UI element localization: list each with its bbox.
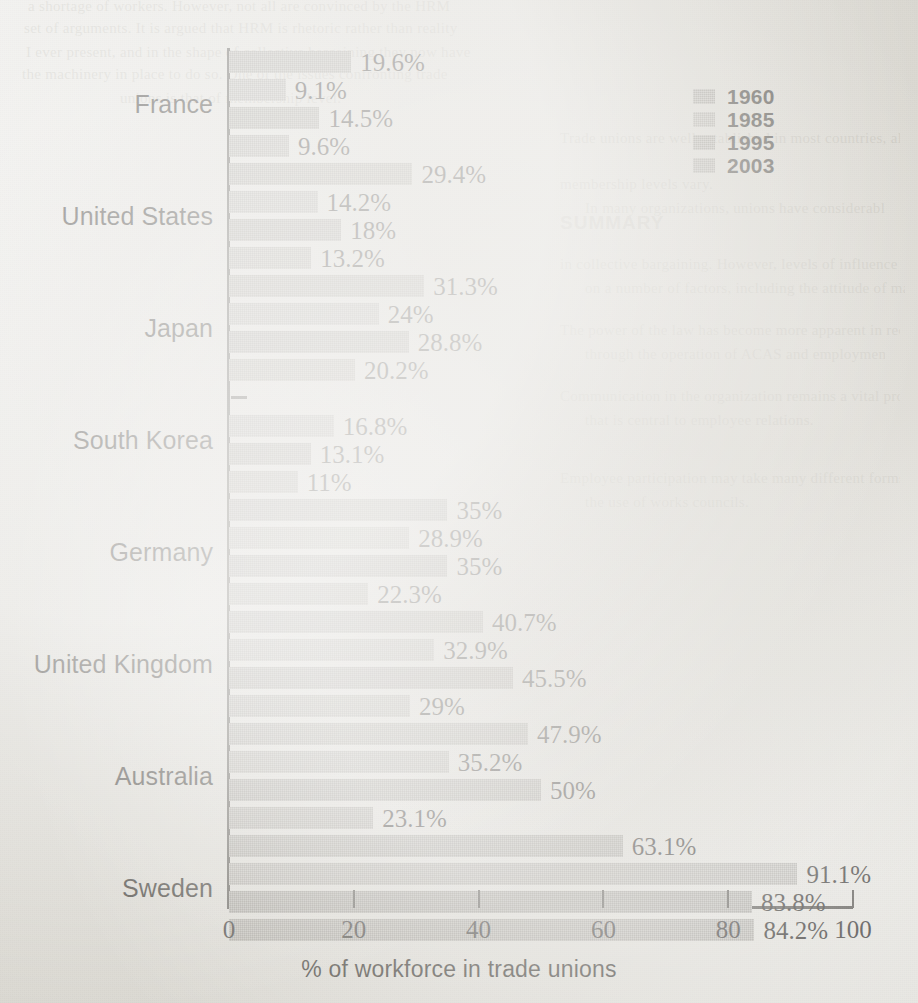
bar — [229, 555, 447, 577]
bar-value-label: 22.3% — [377, 581, 442, 609]
legend-label-1995: 1995 — [727, 131, 775, 155]
category-label-japan: Japan — [0, 314, 213, 343]
bar-missing-stub — [231, 396, 247, 399]
bar — [229, 527, 409, 549]
category-label-germany: Germany — [0, 538, 213, 567]
bar — [229, 331, 409, 353]
legend-item-1985: 1985 — [693, 109, 775, 130]
bar — [229, 471, 298, 493]
bar — [229, 863, 797, 885]
bar-value-label: 11% — [307, 469, 352, 497]
bar — [229, 303, 379, 325]
bar-value-label: 14.5% — [328, 105, 393, 133]
bar-value-label: 28.9% — [418, 525, 483, 553]
x-axis-tick-label: 20 — [341, 916, 366, 944]
bar — [229, 275, 424, 297]
x-axis-tick-label: 60 — [591, 916, 616, 944]
bar — [229, 191, 318, 213]
bar — [229, 751, 449, 773]
x-axis-title: % of workforce in trade unions — [0, 956, 918, 983]
bar-value-label: 20.2% — [364, 357, 429, 385]
category-label-france: France — [0, 90, 213, 119]
bar — [229, 359, 355, 381]
category-label-australia: Australia — [0, 762, 213, 791]
bar — [229, 219, 341, 241]
bar-value-label: 29.4% — [421, 161, 486, 189]
category-label-sweden: Sweden — [0, 874, 213, 903]
bar-value-label: 19.6% — [360, 49, 425, 77]
x-axis-tick-label: 0 — [223, 916, 236, 944]
bar — [229, 835, 623, 857]
legend-item-2003: 2003 — [693, 155, 775, 176]
bar-value-label: 28.8% — [418, 329, 483, 357]
x-axis-tick-label: 80 — [716, 916, 741, 944]
bar-value-label: 83.8% — [761, 889, 826, 917]
bar-value-label: 9.1% — [295, 77, 347, 105]
bar-value-label: 32.9% — [443, 637, 508, 665]
bar — [229, 807, 373, 829]
bar-value-label: 31.3% — [433, 273, 498, 301]
bar-value-label: 13.2% — [320, 245, 385, 273]
x-axis-tick — [353, 890, 355, 908]
bar-value-label: 45.5% — [522, 665, 587, 693]
bar — [229, 667, 513, 689]
legend-label-1985: 1985 — [727, 108, 775, 132]
bar — [229, 499, 447, 521]
bar — [229, 611, 483, 633]
bar — [229, 135, 289, 157]
bar — [229, 443, 311, 465]
x-axis-tick-label: 40 — [466, 916, 491, 944]
category-label-south-korea: South Korea — [0, 426, 213, 455]
bar — [229, 695, 410, 717]
bar — [229, 415, 334, 437]
legend-swatch-1985 — [693, 112, 715, 127]
legend-item-1960: 1960 — [693, 86, 775, 107]
category-label-united-kingdom: United Kingdom — [0, 650, 213, 679]
bar — [229, 723, 528, 745]
bar-value-label: 40.7% — [492, 609, 557, 637]
bar — [229, 779, 541, 801]
bar — [229, 51, 351, 73]
bar — [229, 639, 434, 661]
bar-value-label: 24% — [388, 301, 434, 329]
bar — [229, 79, 286, 101]
category-label-united-states: United States — [0, 202, 213, 231]
bar-value-label: 50% — [550, 777, 596, 805]
x-axis-tick-label: 100 — [834, 916, 872, 944]
x-axis-tick — [478, 890, 480, 908]
legend-swatch-2003 — [693, 158, 715, 173]
bar-value-label: 9.6% — [298, 133, 350, 161]
bar — [229, 919, 754, 941]
legend-swatch-1995 — [693, 135, 715, 150]
legend-item-1995: 1995 — [693, 132, 775, 153]
x-axis-tick — [602, 890, 604, 908]
bar-value-label: 47.9% — [537, 721, 602, 749]
bar — [229, 247, 311, 269]
bar-value-label: 14.2% — [327, 189, 392, 217]
chart-legend: 1960198519952003 — [693, 86, 775, 178]
bar-value-label: 35% — [456, 553, 502, 581]
bar-value-label: 35.2% — [458, 749, 523, 777]
x-axis-tick — [852, 890, 854, 908]
legend-label-1960: 1960 — [727, 85, 775, 109]
bar-value-label: 29% — [419, 693, 465, 721]
bar — [229, 163, 412, 185]
bar — [229, 107, 319, 129]
bar-value-label: 84.2% — [763, 917, 828, 945]
bar-value-label: 91.1% — [806, 861, 871, 889]
bar-value-label: 13.1% — [320, 441, 385, 469]
legend-label-2003: 2003 — [727, 154, 775, 178]
bar-value-label: 63.1% — [632, 833, 697, 861]
bar-value-label: 16.8% — [343, 413, 408, 441]
bar-value-label: 18% — [350, 217, 396, 245]
x-axis-tick — [727, 890, 729, 908]
bar — [229, 891, 752, 913]
legend-swatch-1960 — [693, 89, 715, 104]
bar — [229, 583, 368, 605]
grouped-bar-chart: 19.6%9.1%14.5%9.6%29.4%14.2%18%13.2%31.3… — [0, 0, 918, 1003]
bar-value-label: 23.1% — [382, 805, 447, 833]
bar-value-label: 35% — [456, 497, 502, 525]
